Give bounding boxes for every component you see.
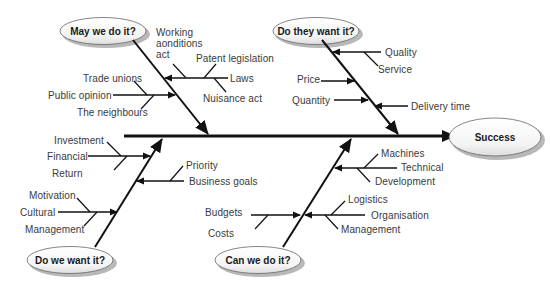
bone-management-1 xyxy=(84,212,97,226)
label-financial: Financial xyxy=(47,151,88,162)
label-business-goals: Business goals xyxy=(189,176,258,187)
label-organisation: Organisation xyxy=(371,210,429,221)
label-machines: Machines xyxy=(381,148,425,159)
label-neighbours: The neighbours xyxy=(77,107,148,118)
bone-nuisance-act xyxy=(214,78,226,92)
label-management-1: Management xyxy=(25,224,84,235)
label-price: Price xyxy=(297,74,320,85)
bone-development xyxy=(357,168,370,182)
bone-working-conditions xyxy=(173,64,186,78)
category-title-may: May we do it? xyxy=(70,26,136,37)
label-priority: Priority xyxy=(186,160,218,171)
label-public-opinion: Public opinion xyxy=(48,90,112,101)
label-investment: Investment xyxy=(54,135,104,146)
label-technical: Technical xyxy=(401,162,444,173)
effect-label: Success xyxy=(475,132,516,143)
label-delivery-time: Delivery time xyxy=(411,101,470,112)
label-quality: Quality xyxy=(385,47,417,58)
bone-return xyxy=(114,156,127,170)
label-logistics: Logistics xyxy=(348,194,388,205)
label-motivation: Motivation xyxy=(29,190,76,201)
label-working: Working xyxy=(156,27,193,38)
bone-costs xyxy=(255,215,268,229)
label-trade-unions: Trade unions xyxy=(83,73,142,84)
label-management-2: Management xyxy=(341,224,400,235)
bone-management-2 xyxy=(325,215,338,229)
label-service: Service xyxy=(378,64,412,75)
category-title-dothey: Do they want it? xyxy=(277,26,354,37)
label-development: Development xyxy=(375,176,435,187)
bone-investment xyxy=(107,142,121,156)
label-laws: Laws xyxy=(230,73,254,84)
label-nuisance-act: Nuisance act xyxy=(203,93,262,104)
label-quantity: Quantity xyxy=(292,95,330,106)
label-conditions: aonditions xyxy=(156,38,203,49)
bone-motivation xyxy=(77,198,90,212)
bone-logistics xyxy=(331,201,345,215)
bone-priority xyxy=(170,166,183,181)
bone-patent-legislation xyxy=(204,64,216,78)
label-return: Return xyxy=(52,168,83,179)
label-budgets: Budgets xyxy=(205,207,242,218)
bone-machines xyxy=(364,154,378,168)
label-cultural: Cultural xyxy=(20,207,55,218)
bone-service xyxy=(364,52,378,66)
label-act: act xyxy=(156,49,170,60)
label-patent-legislation: Patent legislation xyxy=(196,53,274,64)
category-title-canwe: Can we do it? xyxy=(226,255,291,266)
label-costs: Costs xyxy=(208,228,234,239)
category-title-dowe: Do we want it? xyxy=(35,255,105,266)
